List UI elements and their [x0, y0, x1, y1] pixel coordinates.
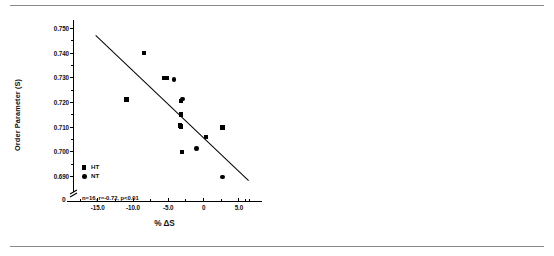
data-point-ht — [124, 97, 128, 101]
y-axis-minor-tick — [71, 114, 73, 115]
y-axis-tick-label: 0.690 — [40, 173, 69, 180]
data-point-ht — [142, 51, 146, 55]
y-axis-minor-tick — [71, 65, 73, 66]
data-point-nt — [194, 146, 199, 151]
x-axis-tick-label: 5.0 — [223, 204, 255, 211]
x-axis-minor-tick — [185, 199, 186, 201]
y-axis-line — [73, 20, 74, 192]
y-axis-minor-tick — [71, 164, 73, 165]
regression-line — [95, 35, 249, 182]
axis-break-symbol — [68, 184, 80, 199]
y-axis-tick — [70, 176, 74, 177]
data-point-ht — [204, 135, 208, 139]
bottom-divider-rule — [10, 246, 544, 247]
x-axis-minor-tick — [221, 199, 222, 201]
y-axis-tick — [70, 77, 74, 78]
y-axis-minor-tick — [71, 90, 73, 91]
data-point-ht — [165, 76, 169, 80]
y-axis-tick — [70, 127, 74, 128]
data-point-ht — [220, 125, 224, 129]
x-axis-tick-label: -5.0 — [152, 204, 184, 211]
y-axis-tick — [70, 53, 74, 54]
x-axis-tick — [168, 198, 169, 202]
chart-panel-order-parameter: 0.6900.7000.7100.7200.7300.7400.750-15.0… — [0, 0, 277, 246]
y-axis-tick-label: 0.740 — [40, 50, 69, 57]
y-axis-tick-label: 0.710 — [40, 124, 69, 131]
figure-container: 0.6900.7000.7100.7200.7300.7400.750-15.0… — [0, 0, 554, 256]
y-axis-minor-tick — [71, 40, 73, 41]
x-axis-tick — [238, 198, 239, 202]
y-axis-tick — [70, 151, 74, 152]
x-axis-origin-label: 0 — [62, 196, 66, 203]
legend-label: NT — [91, 172, 99, 179]
data-point-ht — [179, 112, 183, 116]
x-axis-minor-tick — [249, 199, 250, 201]
data-point-nt — [172, 77, 177, 82]
y-axis-tick-label: 0.720 — [40, 99, 69, 106]
legend-marker-square — [82, 165, 86, 169]
x-axis-tick-label: -15.0 — [82, 204, 114, 211]
chart-panel-peak-height-ratio: 5.105.205.305.405.505.605.705.80-14.0-13… — [277, 0, 554, 246]
x-axis-tick — [203, 198, 204, 202]
data-point-nt — [180, 97, 185, 102]
y-axis-tick-label: 0.750 — [40, 25, 69, 32]
x-axis-minor-tick — [80, 199, 81, 201]
legend-label: HT — [91, 163, 99, 170]
data-point-ht — [179, 124, 183, 128]
legend-marker-circle — [82, 174, 87, 179]
y-axis-minor-tick — [71, 139, 73, 140]
x-axis-title: % ΔS — [67, 219, 262, 228]
y-axis-tick-label: 0.730 — [40, 74, 69, 81]
y-axis-title: Order Parameter (S) — [13, 79, 22, 151]
y-axis-tick — [70, 102, 74, 103]
statistics-annotation: n=16, r=-0.72, p<0.01 — [82, 195, 139, 201]
x-axis-minor-tick — [150, 199, 151, 201]
x-axis-tick-label: -10.0 — [117, 204, 149, 211]
x-axis-minor-tick — [245, 199, 246, 201]
y-axis-tick — [70, 28, 74, 29]
x-axis-tick-label: 0 — [188, 204, 220, 211]
data-point-ht — [180, 150, 184, 154]
y-axis-tick-label: 0.700 — [40, 148, 69, 155]
data-point-nt — [220, 175, 225, 180]
